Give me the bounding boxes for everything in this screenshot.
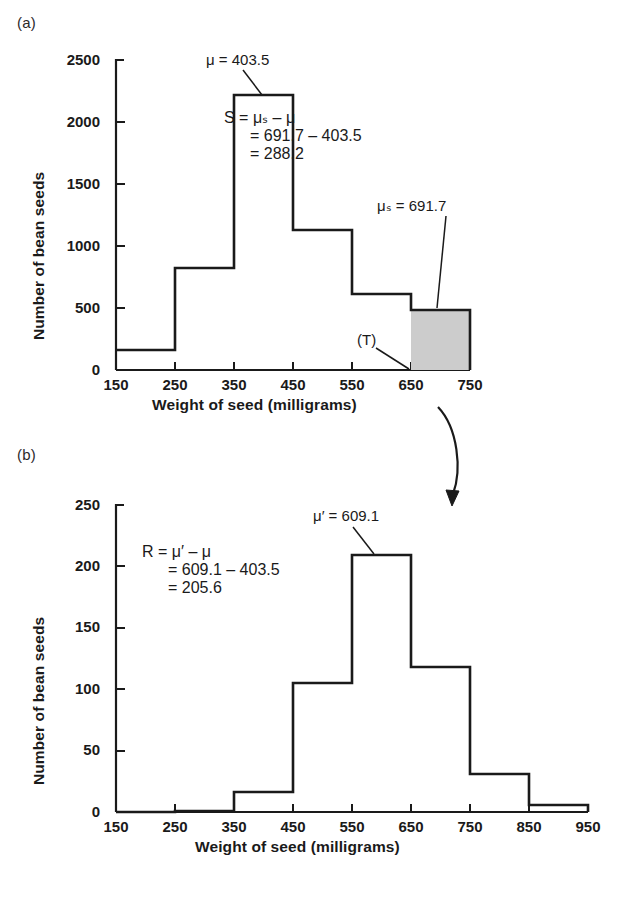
chart-vector-layer <box>0 0 629 900</box>
x-ticks-a <box>175 362 411 370</box>
leader-line-mu-prime <box>353 527 374 554</box>
figure-container: (a) Number of bean seeds Weight of seed … <box>0 0 629 900</box>
y-axis-spine-a <box>116 60 124 370</box>
y-ticks-b <box>116 566 125 751</box>
selected-region-shading <box>411 310 470 370</box>
y-axis-spine-b <box>116 505 124 812</box>
connector-arrow <box>438 407 459 506</box>
histogram-outline-b <box>116 555 588 812</box>
leader-line-threshold <box>376 348 409 369</box>
leader-line-mu-s <box>437 216 446 308</box>
y-ticks-a <box>116 122 125 308</box>
leader-line-mu-a <box>243 70 262 95</box>
